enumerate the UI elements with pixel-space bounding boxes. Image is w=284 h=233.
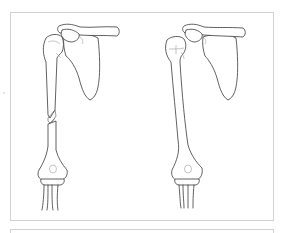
left-scapula <box>64 34 100 100</box>
left-elbow-joint <box>41 179 65 185</box>
right-radius <box>179 185 184 208</box>
right-illustration-intact <box>166 24 246 208</box>
left-ulna <box>52 185 58 210</box>
left-illustration-fractured <box>38 24 119 210</box>
left-humerus-lower <box>38 121 67 180</box>
right-scapula <box>203 34 238 100</box>
right-ulna <box>188 185 194 208</box>
left-radius <box>42 185 48 210</box>
left-humerus-upper <box>43 34 63 118</box>
illustration-canvas <box>0 0 284 233</box>
right-elbow-joint <box>175 179 200 185</box>
